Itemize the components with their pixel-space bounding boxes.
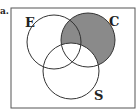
question-label: a. xyxy=(0,6,9,16)
label-s: S xyxy=(94,88,103,103)
label-e: E xyxy=(25,15,35,30)
venn-diagram: a. E C S xyxy=(0,0,138,110)
label-c: C xyxy=(109,14,119,29)
